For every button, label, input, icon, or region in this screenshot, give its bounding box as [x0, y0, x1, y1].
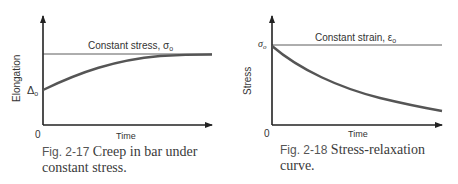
constant-strain-label: Constant strain, εo	[315, 32, 396, 44]
caption-text-line1: Stress-relaxation	[331, 142, 425, 157]
creep-chart: Constant stress, σo Δo Elongation 0 Time	[11, 16, 212, 141]
constant-stress-label: Constant stress, σo	[88, 40, 173, 52]
creep-curve	[43, 55, 212, 91]
fig-2-17-caption: Fig. 2-17 Creep in bar under constant st…	[42, 144, 197, 175]
caption-figure-number: Fig. 2-18	[280, 143, 327, 157]
y-axis-label: Elongation	[11, 55, 22, 102]
fig-2-18-caption: Fig. 2-18 Stress-relaxation curve.	[280, 142, 425, 173]
caption-text-line2: curve.	[280, 158, 315, 173]
y-tick-sigma: σo	[258, 38, 267, 51]
stress-relaxation-chart: Constant strain, εo σo Stress 0 Time	[242, 16, 442, 139]
x-axis-label: Time	[348, 129, 368, 139]
caption-text-line2: constant stress.	[42, 160, 127, 175]
y-axis-label: Stress	[242, 67, 253, 95]
x-axis-label: Time	[116, 131, 136, 141]
relaxation-curve	[272, 46, 442, 111]
origin-label: 0	[35, 129, 41, 140]
caption-figure-number: Fig. 2-17	[42, 145, 89, 159]
caption-text-line1: Creep in bar under	[93, 144, 198, 159]
origin-label: 0	[264, 128, 270, 139]
y-tick-delta: Δo	[27, 84, 38, 97]
